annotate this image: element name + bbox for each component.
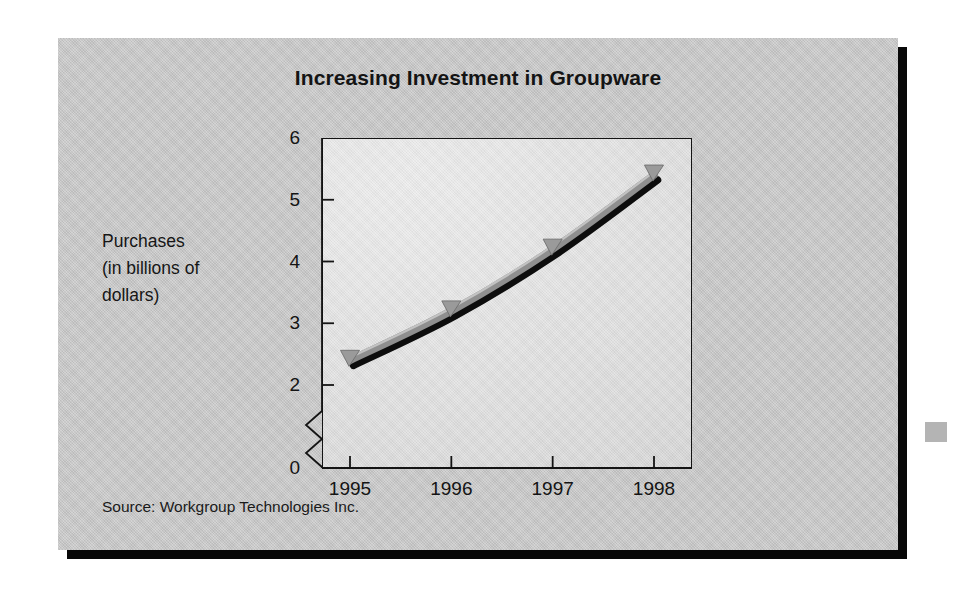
series-line-highlight (349, 173, 653, 358)
y-tick-label: 5 (254, 189, 300, 211)
chart-title: Increasing Investment in Groupware (58, 66, 898, 90)
source-note: Source: Workgroup Technologies Inc. (102, 498, 359, 516)
figure-card: Increasing Investment in Groupware Purch… (58, 38, 898, 550)
data-series-layer (322, 138, 692, 468)
plot-wrapper: 234560 1995199619971998 (290, 134, 710, 530)
x-tick-label: 1997 (532, 478, 574, 500)
y-tick-label-zero: 0 (254, 457, 300, 479)
y-tick-label: 3 (254, 312, 300, 334)
y-axis-tick-labels: 234560 (254, 134, 318, 530)
y-tick-label: 2 (254, 374, 300, 396)
x-tick-label: 1996 (430, 478, 472, 500)
y-axis-caption-line-1: Purchases (102, 228, 287, 255)
y-tick-label: 6 (254, 127, 300, 149)
y-axis-caption-line-2: (in billions of (102, 255, 287, 282)
y-axis-caption-line-3: dollars) (102, 282, 287, 309)
series-line (350, 175, 654, 360)
x-tick-label: 1998 (633, 478, 675, 500)
scan-artifact-mark (925, 422, 947, 442)
x-tick-label: 1995 (329, 478, 371, 500)
y-axis-caption: Purchases (in billions of dollars) (102, 228, 287, 309)
x-axis-tick-labels: 1995199619971998 (322, 476, 692, 510)
